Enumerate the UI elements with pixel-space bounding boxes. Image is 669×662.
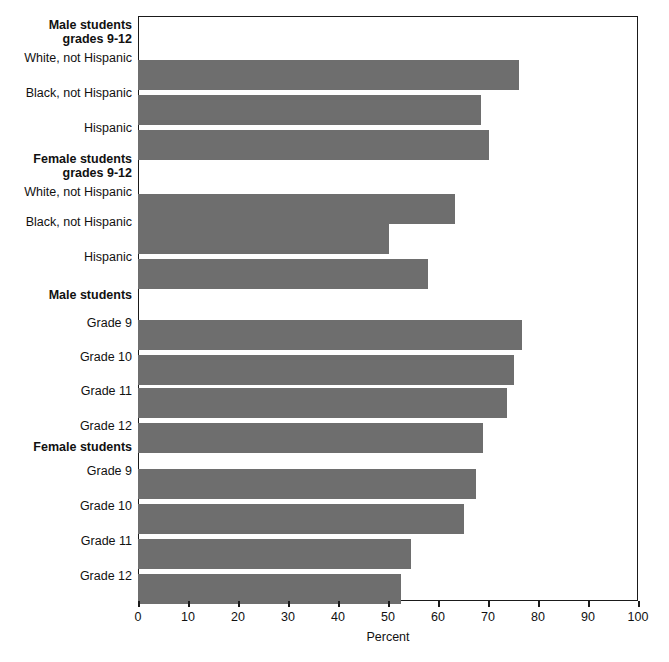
bar	[138, 355, 514, 385]
group-label: Male students grades 9-12	[0, 18, 132, 46]
x-tick-mark	[538, 601, 540, 607]
x-tick-label: 60	[418, 610, 458, 624]
category-label: Grade 12	[0, 569, 132, 583]
category-label: White, not Hispanic	[0, 51, 132, 65]
group-label: Female students grades 9-12	[0, 152, 132, 180]
x-tick-mark	[438, 601, 440, 607]
group-label: Male students	[0, 288, 132, 302]
bar	[138, 130, 489, 160]
x-tick-mark	[238, 601, 240, 607]
x-tick-mark	[388, 601, 390, 607]
bar	[138, 574, 401, 604]
category-label: Grade 10	[0, 499, 132, 513]
category-label: Grade 9	[0, 464, 132, 478]
category-label: Hispanic	[0, 121, 132, 135]
category-label: Black, not Hispanic	[0, 215, 132, 229]
x-tick-mark	[338, 601, 340, 607]
x-tick-label: 30	[268, 610, 308, 624]
x-tick-label: 50	[368, 610, 408, 624]
bar	[138, 194, 455, 224]
bar	[138, 388, 507, 418]
x-tick-label: 100	[618, 610, 658, 624]
x-tick-label: 20	[218, 610, 258, 624]
x-axis-title: Percent	[138, 630, 638, 644]
category-label: White, not Hispanic	[0, 185, 132, 199]
x-tick-mark	[288, 601, 290, 607]
category-labels: Male students grades 9-12White, not Hisp…	[0, 0, 132, 662]
category-label: Grade 11	[0, 534, 132, 548]
category-label: Grade 12	[0, 419, 132, 433]
bar	[138, 60, 519, 90]
bar	[138, 320, 522, 350]
x-tick-mark	[188, 601, 190, 607]
bar	[138, 259, 428, 289]
category-label: Black, not Hispanic	[0, 86, 132, 100]
bar	[138, 423, 483, 453]
chart-figure: Male students grades 9-12White, not Hisp…	[0, 0, 669, 662]
bar	[138, 504, 464, 534]
x-tick-mark	[138, 601, 140, 607]
x-tick-mark	[638, 601, 640, 607]
x-axis-ticks: 0102030405060708090100	[138, 601, 638, 631]
x-tick-label: 70	[468, 610, 508, 624]
category-label: Hispanic	[0, 250, 132, 264]
category-label: Grade 10	[0, 350, 132, 364]
x-tick-label: 80	[518, 610, 558, 624]
category-label: Grade 9	[0, 316, 132, 330]
x-tick-mark	[588, 601, 590, 607]
bar	[138, 95, 481, 125]
x-tick-label: 0	[118, 610, 158, 624]
bars-layer	[138, 16, 638, 601]
group-label: Female students	[0, 440, 132, 454]
x-tick-mark	[488, 601, 490, 607]
x-tick-label: 90	[568, 610, 608, 624]
bar	[138, 224, 389, 254]
bar	[138, 539, 411, 569]
x-tick-label: 40	[318, 610, 358, 624]
x-tick-label: 10	[168, 610, 208, 624]
category-label: Grade 11	[0, 384, 132, 398]
bar	[138, 469, 476, 499]
